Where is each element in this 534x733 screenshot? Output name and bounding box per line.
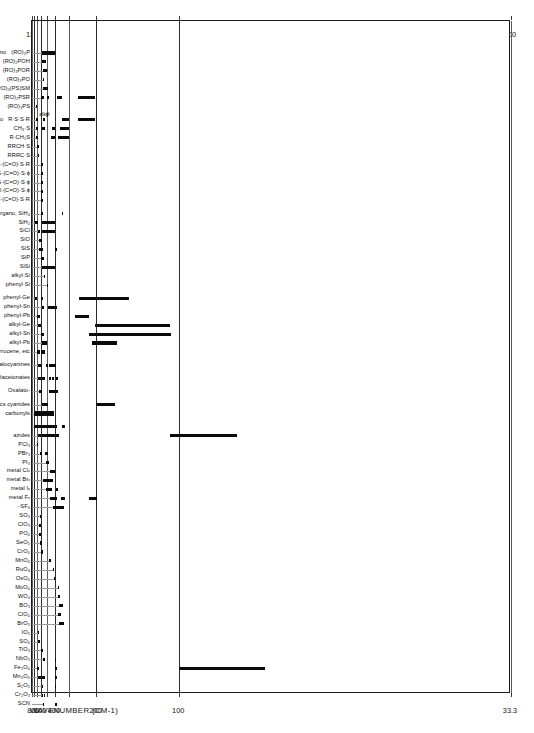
tick-label-33.3: 33.3 xyxy=(503,706,517,715)
absorption-band-bar xyxy=(42,172,44,175)
absorption-band-bar xyxy=(52,127,56,130)
gridline-700 xyxy=(37,21,38,694)
row-label: CH₃·S xyxy=(0,125,30,131)
absorption-band-bar xyxy=(34,411,54,415)
tickmark-bot-200 xyxy=(96,693,97,697)
absorption-band-bar xyxy=(39,533,41,536)
row-label: TiO₃ xyxy=(0,646,30,652)
absorption-band-bar xyxy=(37,145,39,148)
tickmark-top-100 xyxy=(179,16,180,20)
row-leader-line xyxy=(32,98,41,99)
absorption-band-bar xyxy=(49,364,56,367)
row-label: alkyl-Sn xyxy=(0,330,30,336)
absorption-band-bar xyxy=(39,248,43,251)
absorption-band-bar xyxy=(35,297,37,300)
tick-label-100: 100 xyxy=(172,706,184,715)
absorption-band-bar xyxy=(49,559,51,562)
gridline-300 xyxy=(69,21,70,694)
row-leader-line xyxy=(32,686,42,687)
row-leader-line xyxy=(32,552,41,553)
absorption-band-bar xyxy=(36,136,38,139)
row-label: Sulfur - organoR·S·S·R xyxy=(0,116,30,122)
gridline-200 xyxy=(96,21,97,694)
row-label: phenyl·Si xyxy=(0,281,30,287)
absorption-band-bar xyxy=(47,87,49,90)
absorption-band-bar xyxy=(40,541,42,544)
row-leader-line xyxy=(32,606,59,607)
absorption-band-bar xyxy=(42,676,45,679)
row-label: ϕ·S·(C=O)·S·ϕ xyxy=(0,179,30,185)
row-leader-line xyxy=(32,525,39,526)
tickmark-bot-33.3 xyxy=(511,693,512,697)
tickmark-top-700 xyxy=(37,16,38,20)
row-label: RuO₄ xyxy=(0,566,30,572)
absorption-band-bar xyxy=(41,333,44,336)
tickmark-top-33.3 xyxy=(511,16,512,20)
row-leader-line xyxy=(32,285,47,286)
absorption-band-bar xyxy=(42,60,46,63)
row-leader-line xyxy=(32,507,53,508)
row-leader-line xyxy=(32,307,42,308)
absorption-band-bar xyxy=(41,212,43,215)
absorption-band-bar xyxy=(41,297,43,300)
absorption-band-bar xyxy=(56,377,58,380)
row-label: NbO₃ xyxy=(0,655,30,661)
row-label: SiS xyxy=(0,245,30,251)
row-label: OsO₄ xyxy=(0,575,30,581)
row-label: alkyl-Ge xyxy=(0,321,30,327)
row-label: SiP xyxy=(0,254,30,260)
row-leader-line xyxy=(32,276,44,277)
row-label: PO₄ xyxy=(0,530,30,536)
row-leader-line xyxy=(32,334,41,335)
tickmark-bot-500 xyxy=(47,693,48,697)
gridline-900 xyxy=(32,21,33,694)
row-label: Ferrocene, etc xyxy=(0,348,30,354)
row-label: IO₃ xyxy=(0,629,30,635)
absorption-band-bar xyxy=(62,425,66,428)
absorption-band-bar xyxy=(41,163,43,166)
absorption-band-bar xyxy=(38,676,41,679)
row-label: PI₃ xyxy=(0,459,30,465)
absorption-band-bar xyxy=(96,403,114,406)
row-label: SO₄ xyxy=(0,638,30,644)
row-label: S₂O₃ xyxy=(0,682,30,688)
absorption-band-bar xyxy=(89,497,97,500)
absorption-band-bar xyxy=(78,118,95,121)
absorption-band-bar xyxy=(41,199,43,202)
absorption-band-bar xyxy=(38,230,40,233)
absorption-band-bar xyxy=(43,658,45,661)
absorption-band-bar xyxy=(55,658,57,661)
row-label: (RO)₃PS xyxy=(0,103,30,109)
absorption-band-bar xyxy=(44,275,46,278)
row-leader-line xyxy=(32,543,40,544)
absorption-band-bar xyxy=(38,425,57,428)
row-label: SiCl xyxy=(0,227,30,233)
row-leader-line xyxy=(32,624,59,625)
absorption-band-bar xyxy=(41,96,44,99)
absorption-band-bar xyxy=(46,488,52,491)
absorption-band-bar xyxy=(54,577,56,580)
tickmark-top-500 xyxy=(47,16,48,20)
absorption-band-bar xyxy=(62,212,64,215)
row-label: R·S·(C=O)·S·ϕ xyxy=(0,170,30,176)
absorption-band-bar xyxy=(59,604,63,607)
row-leader-line xyxy=(32,597,58,598)
absorption-band-bar xyxy=(36,118,38,121)
row-leader-line xyxy=(32,579,54,580)
absorption-band-bar xyxy=(92,341,117,344)
absorption-band-bar xyxy=(46,461,49,464)
row-label: SiH₂ xyxy=(0,219,30,225)
row-label: carbonyls xyxy=(0,410,30,416)
row-label: Oxalato- xyxy=(0,387,30,393)
row-leader-line xyxy=(32,200,41,201)
row-leader-line xyxy=(32,183,41,184)
tickmark-top-300 xyxy=(69,16,70,20)
row-label: Cl·(C=O)·S·ϕ xyxy=(0,187,30,193)
absorption-band-bar xyxy=(42,221,55,224)
tickmark-top-200 xyxy=(96,16,97,20)
gridline-33.3 xyxy=(511,21,512,694)
absorption-band-bar xyxy=(40,524,42,527)
row-leader-line xyxy=(32,258,41,259)
gridline-600 xyxy=(41,21,42,694)
absorption-band-bar xyxy=(53,568,55,571)
